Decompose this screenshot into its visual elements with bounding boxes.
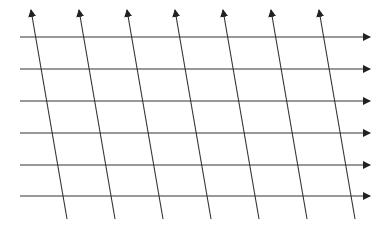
slanted-arrow-5 bbox=[223, 10, 259, 219]
skewed-arrow-grid-diagram bbox=[0, 0, 391, 230]
slanted-arrow-1 bbox=[31, 10, 67, 219]
slanted-arrow-7 bbox=[319, 10, 355, 219]
horizontal-arrows bbox=[20, 37, 370, 196]
slanted-arrow-4 bbox=[175, 10, 211, 219]
slanted-arrow-2 bbox=[79, 10, 115, 219]
slanted-arrow-6 bbox=[271, 10, 307, 219]
slanted-arrows bbox=[31, 10, 355, 219]
slanted-arrow-3 bbox=[127, 10, 163, 219]
